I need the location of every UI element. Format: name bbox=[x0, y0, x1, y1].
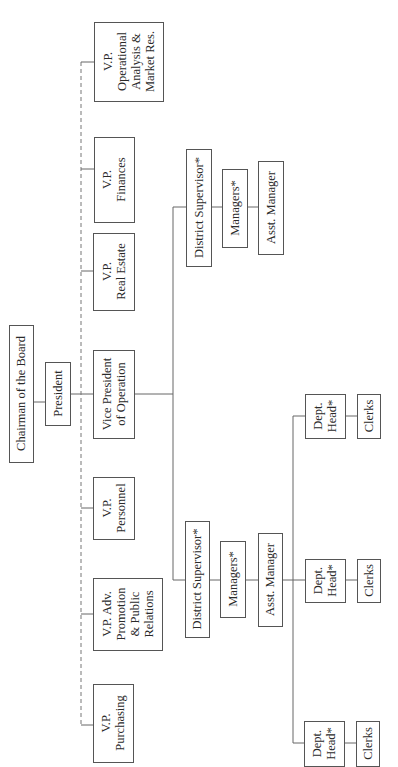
node-label-line: V.P. bbox=[100, 262, 114, 281]
node-ds-1: District Supervisor* bbox=[187, 150, 212, 267]
node-label-line: Dept. bbox=[311, 567, 325, 594]
node-label-line: Relations bbox=[142, 590, 156, 637]
node-label: Asst. Manager bbox=[264, 170, 278, 244]
node-vp-personnel: V.P.Personnel bbox=[94, 478, 135, 540]
node-label-line: Purchasing bbox=[113, 694, 127, 750]
node-clerks-1: Clerks bbox=[358, 395, 381, 439]
node-label-line: Finances bbox=[114, 157, 128, 202]
node-vp-operation: Vice Presidentof Operation bbox=[94, 351, 135, 439]
node-vp-real-estate: V.P.Real Estate bbox=[94, 234, 135, 311]
node-label: Vice Presidentof Operation bbox=[100, 357, 128, 430]
node-label-line: Managers* bbox=[226, 551, 240, 607]
node-label-line: Head* bbox=[325, 400, 339, 433]
node-label-line: District Supervisor* bbox=[190, 528, 204, 629]
node-vp-operational: V.P.OperationalAnalysis &Market Res. bbox=[95, 23, 164, 102]
node-label-line: Dept. bbox=[311, 402, 325, 429]
node-label: Clerks bbox=[361, 727, 375, 760]
node-label: Chairman of the Board bbox=[14, 335, 28, 451]
node-label-line: V.P. bbox=[99, 713, 113, 732]
node-label-line: of Operation bbox=[114, 361, 128, 425]
node-label: Dept.Head* bbox=[310, 727, 338, 760]
node-label-line: V.P. bbox=[101, 52, 115, 71]
node-label: Asst. Manager bbox=[263, 542, 277, 616]
node-label-line: Operational bbox=[115, 31, 129, 91]
node-label: Dept.Head* bbox=[311, 564, 339, 597]
node-label: Managers* bbox=[226, 551, 240, 607]
node-vp-finances: V.P.Finances bbox=[95, 138, 135, 223]
node-label: District Supervisor* bbox=[192, 157, 206, 258]
node-label-line: District Supervisor* bbox=[192, 157, 206, 258]
node-asst-2: Asst. Manager bbox=[259, 534, 283, 627]
org-chart: Chairman of the BoardPresidentV.P.Operat… bbox=[0, 0, 398, 767]
node-label: District Supervisor* bbox=[190, 528, 204, 629]
node-label-line: Market Res. bbox=[143, 31, 157, 92]
node-label-line: Chairman of the Board bbox=[14, 335, 28, 451]
node-label-line: V.P. bbox=[100, 170, 114, 189]
node-president: President bbox=[46, 363, 71, 426]
node-chairman: Chairman of the Board bbox=[10, 326, 34, 463]
node-ds-2: District Supervisor* bbox=[186, 522, 210, 638]
node-label-line: & Public bbox=[128, 591, 142, 636]
node-label-line: Promotion bbox=[114, 587, 128, 641]
node-dh-1: Dept.Head* bbox=[306, 395, 346, 439]
node-label-line: Clerks bbox=[362, 564, 376, 597]
node-label-line: Dept. bbox=[310, 730, 324, 757]
node-label-line: Personnel bbox=[114, 483, 128, 533]
node-boxes: Chairman of the BoardPresidentV.P.Operat… bbox=[10, 23, 381, 767]
node-dh-2: Dept.Head* bbox=[306, 560, 346, 603]
node-label: Dept.Head* bbox=[311, 400, 339, 433]
node-dh-3: Dept.Head* bbox=[305, 722, 345, 767]
node-vp-adv: V.P. Adv.Promotion& PublicRelations bbox=[94, 579, 163, 651]
node-label: Clerks bbox=[362, 400, 376, 433]
node-label-line: Head* bbox=[324, 727, 338, 760]
node-clerks-2: Clerks bbox=[358, 560, 381, 603]
node-label-line: Clerks bbox=[362, 400, 376, 433]
node-label-line: Clerks bbox=[361, 727, 375, 760]
node-mgr-1: Managers* bbox=[223, 170, 248, 248]
node-asst-1: Asst. Manager bbox=[259, 162, 284, 255]
node-vp-purchasing: V.P.Purchasing bbox=[94, 685, 134, 763]
node-label: V.P. Adv.Promotion& PublicRelations bbox=[100, 587, 156, 641]
node-label: Managers* bbox=[228, 180, 242, 236]
node-label: President bbox=[51, 370, 65, 417]
node-label-line: Analysis & bbox=[129, 33, 143, 90]
node-label-line: V.P. bbox=[100, 498, 114, 517]
node-label-line: Asst. Manager bbox=[264, 170, 278, 244]
node-mgr-2: Managers* bbox=[221, 542, 246, 618]
node-clerks-3: Clerks bbox=[357, 722, 380, 767]
node-label-line: Managers* bbox=[228, 180, 242, 236]
node-label-line: Head* bbox=[325, 564, 339, 597]
node-label-line: Vice President bbox=[100, 357, 114, 430]
node-label: Clerks bbox=[362, 564, 376, 597]
node-label-line: Real Estate bbox=[114, 243, 128, 300]
node-label-line: V.P. Adv. bbox=[100, 591, 114, 637]
node-label-line: President bbox=[51, 370, 65, 417]
node-label-line: Asst. Manager bbox=[263, 542, 277, 616]
